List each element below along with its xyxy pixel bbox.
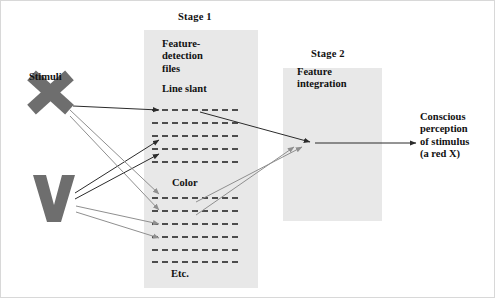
stimuli-label: Stimuli [29, 71, 62, 83]
feature-integration-heading: Feature integration [297, 66, 347, 91]
figure-canvas: Stage 1 Stage 2 Stimuli Feature- detecti… [0, 0, 495, 298]
conscious-perception-label: Conscious perception of stimulus (a red … [420, 111, 469, 161]
stage2-title: Stage 2 [311, 48, 345, 60]
feature-detection-files-heading: Feature- detection files [162, 38, 203, 75]
file-label-etc: Etc. [171, 268, 189, 280]
stage2-panel [283, 68, 382, 221]
file-label-line-slant: Line slant [162, 83, 207, 95]
stage1-title: Stage 1 [178, 11, 212, 23]
file-label-color: Color [172, 177, 198, 189]
stimulus-v-shape [33, 175, 75, 222]
